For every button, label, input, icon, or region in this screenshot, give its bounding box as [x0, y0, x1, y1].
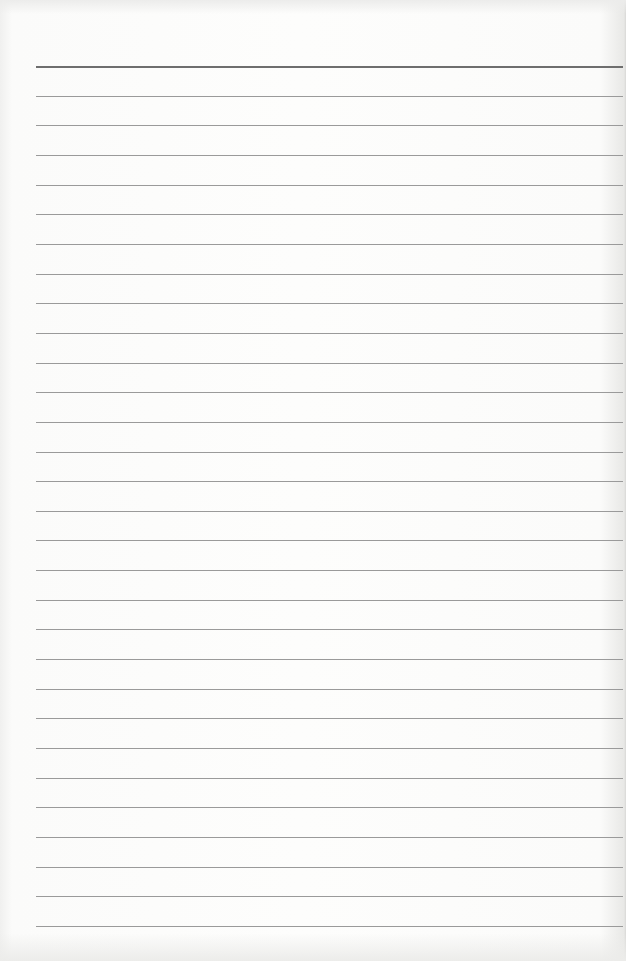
rule-line — [36, 659, 623, 660]
rule-line — [36, 125, 623, 126]
rule-line — [36, 570, 623, 571]
rule-line — [36, 748, 623, 749]
rule-line — [36, 155, 623, 156]
rule-line — [36, 689, 623, 690]
rule-line — [36, 422, 623, 423]
rule-line — [36, 452, 623, 453]
rule-line — [36, 778, 623, 779]
rule-line — [36, 392, 623, 393]
rule-line — [36, 185, 623, 186]
rule-line — [36, 214, 623, 215]
rule-line — [36, 896, 623, 897]
rule-line — [36, 244, 623, 245]
rule-line — [36, 511, 623, 512]
header-rule-line — [36, 66, 623, 68]
rule-line — [36, 274, 623, 275]
rule-line — [36, 807, 623, 808]
rule-line — [36, 363, 623, 364]
rule-line — [36, 600, 623, 601]
scan-shadow-top — [0, 0, 626, 14]
rule-line — [36, 629, 623, 630]
rule-line — [36, 303, 623, 304]
rule-line — [36, 540, 623, 541]
rule-line — [36, 481, 623, 482]
rule-line — [36, 926, 623, 927]
rule-line — [36, 837, 623, 838]
rule-line — [36, 867, 623, 868]
notebook-page — [0, 0, 626, 961]
rule-line — [36, 718, 623, 719]
rule-line — [36, 96, 623, 97]
scan-shadow-bottom — [0, 933, 626, 961]
rule-line — [36, 333, 623, 334]
